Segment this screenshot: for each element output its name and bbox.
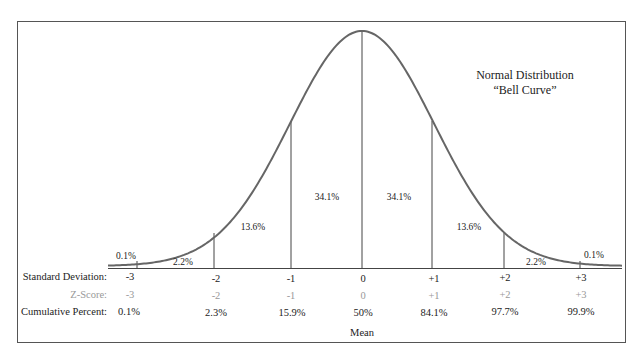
- sd-lines: [137, 31, 580, 268]
- z-value: +3: [575, 289, 586, 300]
- segment-label: 34.1%: [387, 192, 412, 202]
- sd-value: +2: [499, 272, 510, 283]
- cum-row-label: Cumulative Percent:: [21, 306, 107, 317]
- cum-value: 2.3%: [205, 307, 227, 318]
- sd-row-label: Standard Deviation:: [23, 271, 107, 282]
- cum-value: 50%: [353, 307, 372, 318]
- segment-label: 2.2%: [526, 257, 546, 267]
- z-value: +1: [428, 290, 439, 301]
- segment-label: 0.1%: [116, 251, 136, 261]
- z-value: -2: [212, 290, 221, 301]
- sd-value: 0: [360, 273, 365, 284]
- title-line1: Normal Distribution: [476, 68, 574, 83]
- z-value: +2: [499, 289, 510, 300]
- chart-title: Normal Distribution “Bell Curve”: [476, 68, 574, 98]
- cum-value: 15.9%: [278, 307, 305, 318]
- cum-value: 0.1%: [118, 306, 140, 317]
- cum-value: 97.7%: [491, 306, 518, 317]
- cum-value: 84.1%: [420, 307, 447, 318]
- z-value: -3: [126, 289, 135, 300]
- sd-value: -3: [126, 271, 135, 282]
- sd-value: -2: [212, 273, 221, 284]
- segment-label: 13.6%: [457, 222, 482, 232]
- z-row-label: Z-Score:: [70, 289, 107, 300]
- segment-label: 2.2%: [173, 257, 193, 267]
- title-line2: “Bell Curve”: [476, 83, 574, 98]
- segment-label: 13.6%: [241, 222, 266, 232]
- z-value: 0: [360, 290, 365, 301]
- sd-value: -1: [287, 273, 296, 284]
- segment-label: 34.1%: [315, 192, 340, 202]
- z-value: -1: [287, 290, 296, 301]
- sd-value: +1: [428, 273, 439, 284]
- sd-value: +3: [575, 272, 586, 283]
- segment-label: 0.1%: [584, 250, 604, 260]
- bell-curve-line: [108, 31, 622, 266]
- cum-value: 99.9%: [567, 306, 594, 317]
- mean-label: Mean: [350, 327, 374, 338]
